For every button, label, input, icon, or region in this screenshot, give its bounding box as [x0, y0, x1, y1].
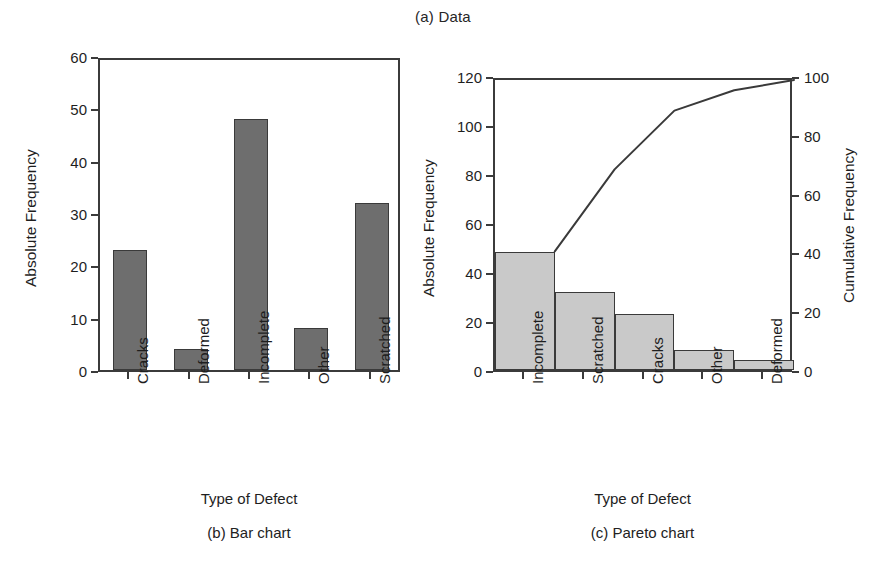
pareto-chart-x-tick	[761, 372, 763, 379]
pareto-chart-y-tick	[486, 77, 493, 79]
pareto-chart-y-tick	[486, 273, 493, 275]
bar-chart-y-tick-label: 50	[43, 102, 87, 117]
pareto-chart-secondary-y-tick-label: 40	[804, 246, 821, 261]
bar-chart-category-label: Deformed	[195, 318, 212, 384]
pareto-chart-category-label: Cracks	[649, 337, 666, 384]
pareto-chart-secondary-y-tick	[792, 371, 799, 373]
bar-chart-category-label: Incomplete	[255, 311, 272, 384]
pareto-chart-category-label: Deformed	[768, 318, 785, 384]
pareto-chart-secondary-y-tick	[792, 253, 799, 255]
bar-chart-y-tick	[91, 162, 98, 164]
bar-chart-category-label: Other	[315, 346, 332, 384]
pareto-chart-y-tick-label: 80	[438, 168, 482, 183]
bar-chart-y-tick	[91, 266, 98, 268]
bar-chart-x-tick	[369, 372, 371, 379]
bar-chart-category-label: Scratched	[376, 316, 393, 384]
pareto-chart-cumulative-line	[555, 80, 794, 251]
bar-chart-y-axis-title: Absolute Frequency	[22, 149, 40, 287]
pareto-chart-y-tick-label: 100	[438, 119, 482, 134]
pareto-chart-secondary-y-tick	[792, 136, 799, 138]
bar-chart-y-tick	[91, 371, 98, 373]
pareto-chart-caption: (c) Pareto chart	[493, 524, 792, 541]
bar-chart-y-tick-label: 60	[43, 50, 87, 65]
bar-chart-y-tick-label: 30	[43, 207, 87, 222]
bar-chart-y-tick	[91, 214, 98, 216]
bar-chart-x-tick	[127, 372, 129, 379]
pareto-chart-y-tick	[486, 371, 493, 373]
pareto-chart-secondary-y-tick-label: 20	[804, 305, 821, 320]
pareto-chart-category-label: Scratched	[589, 316, 606, 384]
pareto-chart-x-tick	[701, 372, 703, 379]
pareto-chart-y-tick	[486, 175, 493, 177]
pareto-chart-y-tick-label: 20	[438, 315, 482, 330]
bar-chart-y-tick	[91, 57, 98, 59]
pareto-chart-secondary-y-tick-label: 0	[804, 364, 812, 379]
figure-title: (a) Data	[0, 8, 886, 25]
bar-chart-y-tick-label: 20	[43, 259, 87, 274]
pareto-chart-category-label: Other	[708, 346, 725, 384]
pareto-chart-x-tick	[642, 372, 644, 379]
panel-pareto-chart: Absolute Frequency Cumulative Frequency …	[420, 40, 886, 562]
bar-chart-x-tick	[248, 372, 250, 379]
bar-chart-x-tick	[308, 372, 310, 379]
pareto-chart-y-tick	[486, 126, 493, 128]
pareto-chart-x-tick	[582, 372, 584, 379]
pareto-chart-secondary-y-tick	[792, 195, 799, 197]
pareto-chart-category-label: Incomplete	[529, 311, 546, 384]
bar-chart-category-label: Cracks	[134, 337, 151, 384]
pareto-chart-y-tick-label: 40	[438, 266, 482, 281]
pareto-chart-y-tick-label: 0	[438, 364, 482, 379]
pareto-chart-bar	[734, 360, 794, 370]
bar-chart-y-tick-label: 10	[43, 312, 87, 327]
pareto-chart-secondary-y-tick	[792, 77, 799, 79]
bar-chart-plot-area	[98, 58, 400, 372]
panel-bar-chart: Absolute Frequency Type of Defect (b) Ba…	[0, 40, 440, 562]
pareto-chart-x-axis-title: Type of Defect	[493, 490, 792, 507]
pareto-chart-secondary-y-tick-label: 60	[804, 188, 821, 203]
pareto-chart-y-tick-label: 120	[438, 70, 482, 85]
pareto-chart-bar	[674, 350, 734, 370]
pareto-chart-secondary-y-tick	[792, 312, 799, 314]
bar-chart-y-tick-label: 0	[43, 364, 87, 379]
pareto-chart-x-tick	[522, 372, 524, 379]
bar-chart-x-tick	[188, 372, 190, 379]
pareto-chart-y-axis-title: Absolute Frequency	[420, 159, 438, 297]
bar-chart-y-tick-label: 40	[43, 155, 87, 170]
pareto-chart-y-tick-label: 60	[438, 217, 482, 232]
bar-chart-y-tick	[91, 319, 98, 321]
bar-chart-y-tick	[91, 109, 98, 111]
pareto-chart-secondary-y-tick-label: 80	[804, 129, 821, 144]
bar-chart-caption: (b) Bar chart	[98, 524, 400, 541]
pareto-chart-y-tick	[486, 224, 493, 226]
pareto-chart-secondary-y-axis-title: Cumulative Frequency	[840, 148, 858, 303]
bar-chart-x-axis-title: Type of Defect	[98, 490, 400, 507]
pareto-chart-secondary-y-tick-label: 100	[804, 70, 829, 85]
pareto-chart-y-tick	[486, 322, 493, 324]
